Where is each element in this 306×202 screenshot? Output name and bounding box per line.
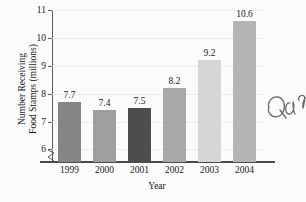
y-tick-label: 8 <box>41 89 46 99</box>
gridline <box>52 66 262 67</box>
bar-value-label: 7.4 <box>99 98 111 108</box>
y-tick-label: 6 <box>41 144 46 154</box>
gridline <box>52 94 262 95</box>
x-tick-label: 2004 <box>235 165 254 175</box>
y-tick-label: 10 <box>37 33 47 43</box>
y-tick-mark <box>48 122 52 123</box>
x-tick-label: 2002 <box>165 165 184 175</box>
bar-value-label: 8.2 <box>169 76 181 86</box>
y-tick-mark <box>48 149 52 150</box>
y-tick-label: 7 <box>41 117 46 127</box>
y-axis-title-line-2: Food Stamps (millions) <box>28 44 40 134</box>
gridline <box>52 10 262 11</box>
bar: 7.5 <box>128 108 151 162</box>
x-axis-title: Year <box>52 181 262 191</box>
bar: 9.2 <box>198 60 221 162</box>
bar: 7.4 <box>93 110 116 162</box>
bar: 10.6 <box>233 21 256 162</box>
gridline <box>52 149 262 150</box>
y-tick-mark <box>48 94 52 95</box>
y-axis-title-line-1: Number Receiving <box>17 53 29 125</box>
y-tick-label: 9 <box>41 61 46 71</box>
x-tick-label: 2003 <box>200 165 219 175</box>
bar-value-label: 9.2 <box>204 48 216 58</box>
bar-chart: Number Receiving Food Stamps (millions) … <box>0 0 306 202</box>
gridline <box>52 38 262 39</box>
bar: 7.7 <box>58 102 81 162</box>
bar: 8.2 <box>163 88 186 162</box>
y-tick-mark <box>48 10 52 11</box>
bar-value-label: 10.6 <box>236 9 253 19</box>
bar-value-label: 7.7 <box>64 90 76 100</box>
bar-value-label: 7.5 <box>134 96 146 106</box>
x-tick-label: 1999 <box>60 165 79 175</box>
gridline <box>52 122 262 123</box>
plot-area: 67891011 7.77.47.58.29.210.6 <box>52 10 262 162</box>
x-tick-label: 2000 <box>95 165 114 175</box>
y-tick-mark <box>48 38 52 39</box>
y-tick-mark <box>48 66 52 67</box>
handwritten-annotation <box>266 88 306 136</box>
x-tick-label: 2001 <box>130 165 149 175</box>
y-tick-label: 11 <box>37 5 46 15</box>
